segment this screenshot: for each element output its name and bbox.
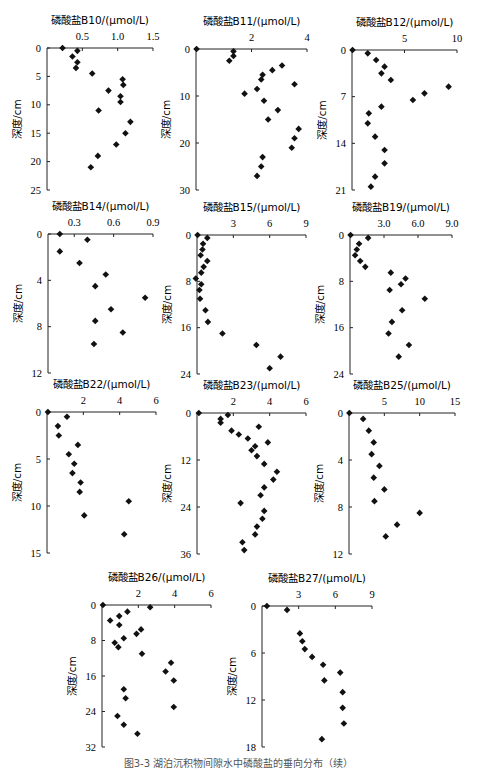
figure-canvas: 磷酸盐B10/(μmol/L)0.51.01.50510152025深度/cm磷… [0,0,477,770]
data-point-diamond [55,423,62,430]
y-tick-label: 8 [339,276,344,287]
data-point-diamond [254,86,261,93]
panel-title: 磷酸盐B25/(μmol/L) [353,379,451,391]
data-point-diamond [193,46,200,53]
data-point-diamond [288,144,295,151]
data-point-diamond [402,275,409,282]
y-axis-label: 深度/cm [66,656,78,696]
data-point-diamond [204,235,211,242]
data-point-diamond [245,435,252,442]
data-point-diamond [381,160,388,167]
x-tick-label: 10 [452,33,463,44]
data-point-diamond [352,252,359,259]
data-point-diamond [199,246,206,253]
data-point-diamond [257,492,264,499]
data-point-diamond [95,153,102,160]
y-tick-label: 21 [336,185,347,196]
panel-b12: 磷酸盐B12/(μmol/L)510071421深度/cm [316,16,462,196]
data-point-diamond [162,668,169,675]
data-point-diamond [356,240,363,247]
x-tick-label: 2 [81,395,86,406]
data-point-diamond [378,103,385,110]
x-tick-label: 6 [303,396,308,407]
data-point-diamond [368,183,375,190]
data-point-diamond [362,264,369,271]
data-point-diamond [254,173,261,180]
data-point-diamond [295,126,302,133]
y-tick-label: 0 [186,408,191,419]
data-point-diamond [117,93,124,100]
data-point-diamond [116,613,123,620]
data-point-diamond [266,365,273,372]
data-point-diamond [107,617,114,624]
data-point-diamond [301,646,308,653]
x-tick-label: 6 [208,588,213,599]
x-tick-label: 3 [231,218,236,229]
panel-b27: 磷酸盐B27/(μmol/L)369061218深度/cm [226,572,375,753]
y-tick-label: 25 [31,185,42,196]
data-point-diamond [259,154,266,161]
panel-b25: 磷酸盐B25/(μmol/L)5101504812深度/cm [313,379,460,560]
data-point-diamond [389,319,396,326]
panel-b19: 磷酸盐B19/(μmol/L)3.06.09.0081624深度/cm [314,201,459,380]
data-point-diamond [261,484,268,491]
y-axis-label: 深度/cm [161,464,173,504]
data-point-diamond [125,498,132,505]
data-point-diamond [309,654,316,661]
data-point-diamond [378,70,385,77]
data-point-diamond [142,294,149,301]
x-tick-label: 0.9 [146,217,159,228]
y-tick-label: 30 [180,185,191,196]
y-axis-label: 深度/cm [11,463,23,503]
data-point-diamond [270,476,277,483]
y-tick-label: 16 [334,322,345,333]
data-point-diamond [349,47,356,54]
data-point-diamond [116,622,123,629]
data-point-diamond [366,110,373,117]
data-point-diamond [194,232,201,239]
data-point-diamond [259,72,266,79]
data-point-diamond [381,486,388,493]
data-point-diamond [357,258,364,265]
x-tick-label: 15 [450,396,461,407]
data-point-diamond [92,318,99,325]
data-point-diamond [254,453,261,460]
data-point-diamond [120,82,127,89]
data-point-diamond [121,686,128,693]
y-tick-label: 36 [181,549,192,560]
data-point-diamond [258,76,265,83]
y-tick-label: 0 [339,230,344,241]
data-point-diamond [252,531,259,538]
data-point-diamond [115,644,122,651]
y-tick-label: 24 [86,706,97,717]
y-tick-label: 10 [31,501,42,512]
x-tick-label: 0.3 [68,217,81,228]
y-tick-label: 0 [338,408,343,419]
figure-caption: 图3-3 湖泊沉积物间隙水中磷酸盐的垂向分布（续） [0,755,477,770]
y-axis-label: 深度/cm [161,285,173,325]
data-point-diamond [354,246,361,253]
y-tick-label: 16 [181,322,192,333]
data-point-diamond [364,50,371,57]
panel-title: 磷酸盐B19/(μmol/L) [352,201,450,213]
data-point-diamond [365,235,372,242]
panel-b26: 磷酸盐B26/(μmol/L)24608162432深度/cm [66,571,214,753]
y-tick-label: 24 [334,369,345,380]
data-point-diamond [265,439,272,446]
data-point-diamond [269,67,276,74]
data-point-diamond [261,508,268,515]
data-point-diamond [76,489,83,496]
data-point-diamond [291,135,298,142]
data-point-diamond [217,419,224,426]
data-point-diamond [388,77,395,84]
data-point-diamond [339,705,346,712]
data-point-diamond [381,147,388,154]
data-point-diamond [364,120,371,127]
data-point-diamond [275,107,282,114]
data-point-diamond [117,99,124,106]
panel-title: 磷酸盐B12/(μmol/L) [356,16,454,28]
data-point-diamond [261,97,268,104]
x-tick-label: 4 [267,396,273,407]
data-point-diamond [370,474,377,481]
data-point-diamond [241,90,248,97]
